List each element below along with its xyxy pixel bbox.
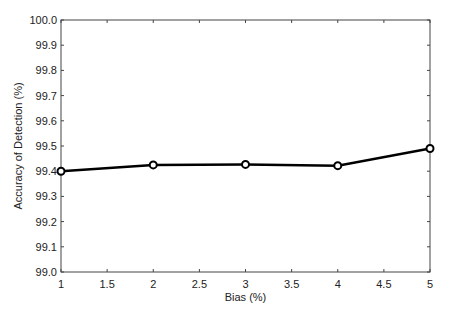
y-tick-label: 99.5 — [36, 140, 57, 152]
y-tick-label: 99.0 — [36, 266, 57, 278]
y-tick-label: 99.9 — [36, 39, 57, 51]
x-axis-ticks: 11.522.533.544.55 — [58, 20, 433, 290]
x-axis-label: Bias (%) — [225, 291, 267, 303]
x-tick-label: 2.5 — [192, 278, 207, 290]
x-tick-label: 1 — [58, 278, 64, 290]
y-tick-label: 99.3 — [36, 190, 57, 202]
x-tick-label: 1.5 — [99, 278, 114, 290]
data-point-marker — [150, 161, 157, 168]
y-axis-label: Accuracy of Detection (%) — [12, 82, 24, 209]
x-tick-label: 2 — [150, 278, 156, 290]
y-tick-label: 99.8 — [36, 64, 57, 76]
x-tick-label: 3.5 — [284, 278, 299, 290]
y-tick-label: 99.1 — [36, 241, 57, 253]
data-point-marker — [427, 145, 434, 152]
y-tick-label: 100.0 — [29, 14, 57, 26]
y-tick-label: 99.4 — [36, 165, 57, 177]
data-series — [58, 145, 434, 175]
data-point-marker — [58, 168, 65, 175]
data-point-marker — [334, 162, 341, 169]
x-tick-label: 3 — [242, 278, 248, 290]
chart: 11.522.533.544.55 99.099.199.299.399.499… — [0, 0, 450, 316]
y-axis-ticks: 99.099.199.299.399.499.599.699.799.899.9… — [29, 14, 430, 278]
data-point-marker — [242, 161, 249, 168]
x-tick-label: 5 — [427, 278, 433, 290]
y-tick-label: 99.2 — [36, 216, 57, 228]
x-tick-label: 4 — [335, 278, 341, 290]
x-tick-label: 4.5 — [376, 278, 391, 290]
y-tick-label: 99.6 — [36, 115, 57, 127]
plot-area — [61, 20, 430, 272]
y-tick-label: 99.7 — [36, 90, 57, 102]
